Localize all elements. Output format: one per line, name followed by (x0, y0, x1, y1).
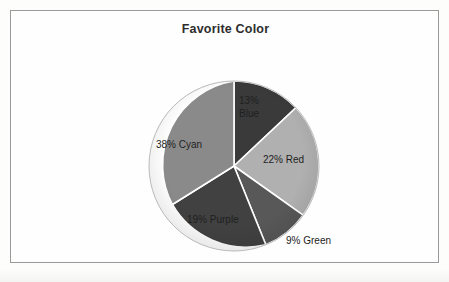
scan-shadow (0, 268, 449, 282)
pie-label-blue: 13% Blue (239, 95, 259, 120)
pie-label-red: 22% Red (263, 154, 304, 167)
chart-title: Favorite Color (11, 22, 440, 36)
pie-label-blue-percent: 13% (239, 95, 259, 108)
page-background: Favorite Color (0, 0, 449, 282)
pie-label-cyan: 38% Cyan (156, 139, 202, 152)
chart-frame: Favorite Color (10, 10, 439, 263)
pie-label-purple: 19% Purple (187, 214, 239, 227)
pie-label-blue-name: Blue (239, 108, 259, 121)
pie-label-green: 9% Green (286, 235, 331, 248)
